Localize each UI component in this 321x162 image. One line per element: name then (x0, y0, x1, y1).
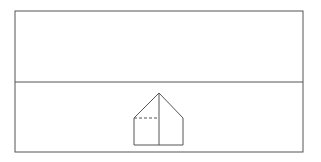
house-shape (134, 93, 183, 145)
diagram-canvas (0, 0, 321, 162)
